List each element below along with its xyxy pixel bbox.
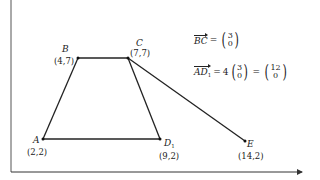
- equals-sign-2: =: [252, 67, 260, 77]
- point-coord-d1: (9,2): [159, 151, 179, 161]
- point-dot-a: [42, 138, 45, 141]
- left-paren-icon: (: [222, 30, 226, 49]
- point-label-b: B: [62, 44, 69, 54]
- column-vector-result: ( 12 0 ): [263, 62, 288, 81]
- point-label-c: C: [136, 38, 143, 48]
- equals-sign: =: [213, 67, 221, 77]
- vector-ad1-sub: 1: [208, 72, 212, 78]
- point-label-d1: D1: [164, 138, 175, 149]
- column-vector-inner: ( 3 0 ): [230, 62, 250, 81]
- equation-ad1: AD1 = 4 ( 3 0 ) = ( 12 0 ): [194, 62, 289, 81]
- vector-ad1-name: AD: [194, 67, 208, 77]
- point-label-e: E: [247, 139, 254, 149]
- point-label-d1-sub: 1: [171, 143, 175, 149]
- point-label-a: A: [33, 135, 40, 145]
- segment-c-d1: [128, 58, 160, 139]
- left-paren-icon: (: [231, 62, 235, 81]
- equals-sign: =: [210, 35, 218, 45]
- inner-bottom: 0: [237, 72, 242, 80]
- column-vector-bc: ( 3 0 ): [220, 30, 240, 49]
- scalar-multiplier: 4: [223, 67, 229, 77]
- point-dot-d1: [159, 138, 162, 141]
- point-coord-b: (4,7): [54, 56, 74, 66]
- right-paren-icon: ): [234, 30, 238, 49]
- vector-bc-bottom: 0: [228, 40, 233, 48]
- point-coord-c: (7,7): [130, 48, 150, 58]
- segment-a-b: [43, 58, 78, 139]
- right-paren-icon: ): [282, 62, 286, 81]
- equation-bc: BC = ( 3 0 ): [194, 30, 241, 49]
- vector-bc-label: BC: [194, 34, 208, 46]
- vector-ad1-label: AD1: [194, 65, 211, 78]
- point-dot-b: [77, 57, 80, 60]
- point-coord-e: (14,2): [238, 151, 264, 161]
- point-coord-a: (2,2): [27, 147, 47, 157]
- right-paren-icon: ): [244, 62, 248, 81]
- result-bottom: 0: [273, 72, 278, 80]
- left-paren-icon: (: [264, 62, 268, 81]
